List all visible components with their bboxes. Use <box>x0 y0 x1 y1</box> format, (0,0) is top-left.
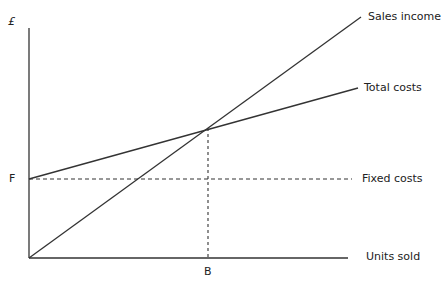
sales-income-label: Sales income <box>368 10 441 23</box>
y-axis-label: £ <box>8 15 15 28</box>
total-costs-line <box>29 88 358 179</box>
units-sold-label: Units sold <box>366 250 420 263</box>
sales-income-line <box>29 17 361 258</box>
b-tick-label: B <box>204 265 212 278</box>
fixed-costs-label: Fixed costs <box>362 172 423 185</box>
f-tick-label: F <box>9 172 15 185</box>
total-costs-label: Total costs <box>364 81 422 94</box>
